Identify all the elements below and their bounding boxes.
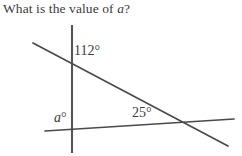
angle-label-a: a° (54, 110, 67, 126)
angle-label-a-variable: a (54, 110, 61, 125)
angle-label-25: 25° (132, 105, 152, 121)
angle-label-a-degree-icon: ° (61, 110, 67, 125)
page-root: What is the value of a? 112° a° 25° (0, 0, 242, 156)
angle-label-112: 112° (74, 43, 100, 59)
geometry-figure (0, 0, 242, 156)
